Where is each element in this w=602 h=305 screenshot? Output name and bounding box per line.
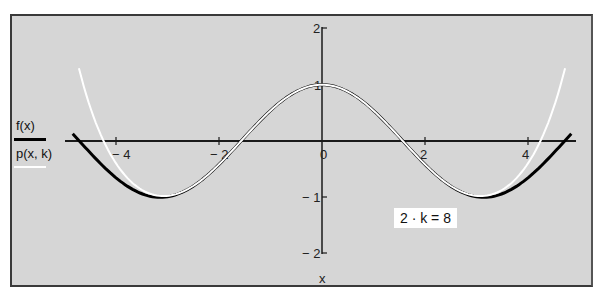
y-tick-label: 2: [313, 21, 320, 36]
legend-f-label: f(x): [16, 118, 35, 133]
parameter-box[interactable]: 2 · k = 8: [394, 208, 457, 228]
y-tick-label: − 2: [302, 246, 320, 261]
x-tick-label: 0: [320, 147, 327, 162]
legend-f-line: [14, 138, 46, 141]
legend-p-label: p(x, k): [16, 146, 52, 161]
legend-p-line: [14, 166, 46, 168]
x-tick-label: 4: [522, 147, 529, 162]
x-axis-label: x: [319, 271, 326, 286]
chart-canvas: − 4 − 2 0 2 4 2 1 − 1 − 2 x: [0, 0, 602, 305]
y-tick-label: − 1: [302, 190, 320, 205]
